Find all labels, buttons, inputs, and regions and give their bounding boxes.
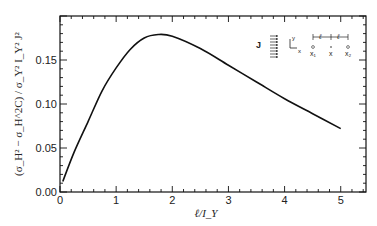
x-tick-label: 2 bbox=[169, 194, 175, 206]
svg-text:ℓ: ℓ bbox=[336, 33, 340, 41]
line-chart: 0123450.000.050.100.15 (σ_H² − σ_H^2C) /… bbox=[0, 0, 377, 226]
x-tick-label: 5 bbox=[338, 194, 344, 206]
y-axis-label: (σ_H² − σ_H^2C) / σ_Y² I_Y² J² bbox=[12, 31, 25, 175]
y-tick-label: 0.15 bbox=[36, 54, 57, 66]
x-axis-label: ℓ/I_Y bbox=[195, 207, 220, 219]
x-tick-label: 3 bbox=[225, 194, 231, 206]
x-tick-label: 0 bbox=[57, 194, 63, 206]
coordinate-axes-icon: y x bbox=[290, 35, 301, 54]
svg-text:y: y bbox=[292, 35, 295, 41]
svg-text:x₁: x₁ bbox=[310, 50, 317, 57]
chart: 0123450.000.050.100.15 (σ_H² − σ_H^2C) /… bbox=[0, 0, 377, 226]
axis-ticks bbox=[60, 16, 366, 192]
inset-schematic: J y x ℓ ℓ x₁ x x₂ bbox=[256, 33, 352, 58]
flux-arrows-icon bbox=[270, 35, 278, 58]
tick-labels: 0123450.000.050.100.15 bbox=[36, 54, 344, 206]
x-tick-label: 1 bbox=[113, 194, 119, 206]
y-tick-label: 0.10 bbox=[36, 98, 57, 110]
spacing-dimension: ℓ ℓ bbox=[313, 33, 348, 41]
svg-text:x: x bbox=[329, 50, 333, 57]
data-line bbox=[63, 34, 341, 181]
measurement-points: x₁ x x₂ bbox=[310, 46, 352, 57]
svg-text:x: x bbox=[298, 48, 301, 54]
flux-label: J bbox=[256, 40, 261, 50]
x-tick-label: 4 bbox=[282, 194, 288, 206]
svg-text:x₂: x₂ bbox=[345, 50, 352, 57]
y-tick-label: 0.05 bbox=[36, 142, 57, 154]
svg-text:ℓ: ℓ bbox=[318, 33, 322, 41]
y-tick-label: 0.00 bbox=[36, 186, 57, 198]
plot-frame bbox=[60, 16, 366, 192]
